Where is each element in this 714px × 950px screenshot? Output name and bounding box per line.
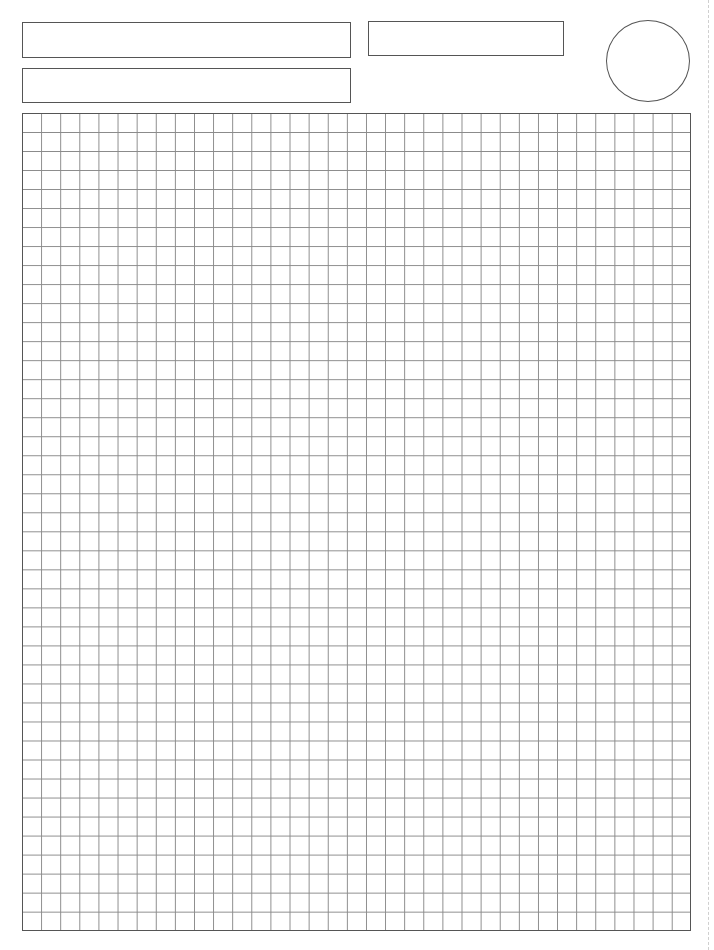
dashed-cut-line: [708, 0, 709, 950]
blank-circle: [606, 20, 690, 102]
blank-field-second-left: [22, 68, 351, 103]
blank-field-top-middle: [368, 21, 564, 56]
graph-grid: [22, 113, 691, 931]
blank-field-top-left: [22, 22, 351, 58]
